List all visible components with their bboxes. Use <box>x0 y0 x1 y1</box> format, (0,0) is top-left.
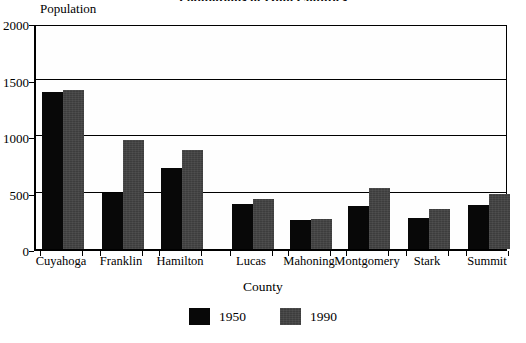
bar-mahoning-1990 <box>311 219 332 249</box>
bar-summit-1990 <box>489 194 510 249</box>
y-axis-title: Population <box>40 1 96 17</box>
y-axis-tick-label: 0 <box>0 245 29 258</box>
bar-stark-1950 <box>408 218 429 249</box>
plot-area <box>34 25 507 251</box>
x-axis-tick-label: Hamilton <box>156 254 203 269</box>
plot-inner <box>36 26 506 249</box>
bar-group <box>290 23 332 249</box>
chart-legend: 19501990 <box>0 308 526 325</box>
bar-group <box>468 23 510 249</box>
bar-cuyahoga-1990 <box>63 90 84 249</box>
x-axis-tick-mark <box>508 251 509 256</box>
bar-group <box>42 23 84 249</box>
y-axis-tick-mark <box>29 138 34 139</box>
bar-summit-1950 <box>468 205 489 249</box>
bar-hamilton-1990 <box>182 150 203 249</box>
bar-stark-1990 <box>429 209 450 249</box>
y-axis-tick-label: 2000 <box>0 19 29 32</box>
legend-label-1950: 1950 <box>219 309 246 325</box>
x-axis-tick-label: Mahoning <box>283 254 334 269</box>
y-axis-tick-label: 1500 <box>0 76 29 89</box>
x-axis-tick-mark <box>406 251 407 256</box>
x-axis-tick-label: Cuyahoga <box>36 254 87 269</box>
x-axis-tick-label: Stark <box>414 254 440 269</box>
bar-chart: Populations of Ohio Counties Population … <box>0 0 526 343</box>
legend-entry-1990: 1990 <box>280 308 337 325</box>
x-axis-tick-mark <box>230 251 231 256</box>
bar-montgomery-1990 <box>369 188 390 249</box>
bar-group <box>348 23 390 249</box>
bar-franklin-1950 <box>102 193 123 249</box>
bar-mahoning-1950 <box>290 220 311 249</box>
bar-hamilton-1950 <box>161 168 182 249</box>
bar-lucas-1990 <box>253 199 274 249</box>
bar-cuyahoga-1950 <box>42 92 63 249</box>
bar-group <box>102 23 144 249</box>
x-axis-tick-label: Montgomery <box>334 254 399 269</box>
bar-montgomery-1950 <box>348 206 369 249</box>
y-axis-tick-label: 1000 <box>0 132 29 145</box>
bar-group <box>408 23 450 249</box>
y-axis-tick-label: 500 <box>0 189 29 202</box>
x-axis-tick-label: Franklin <box>100 254 142 269</box>
y-axis-tick-mark <box>29 82 34 83</box>
bar-lucas-1950 <box>232 204 253 249</box>
legend-label-1990: 1990 <box>310 309 337 325</box>
bar-group <box>161 23 203 249</box>
y-axis-tick-mark <box>29 251 34 252</box>
bar-franklin-1990 <box>123 140 144 249</box>
x-axis-tick-label: Lucas <box>236 254 266 269</box>
x-axis-tick-label: Summit <box>467 254 507 269</box>
x-axis-tick-mark <box>448 251 449 256</box>
legend-swatch-1950 <box>189 308 210 325</box>
legend-entry-1950: 1950 <box>189 308 246 325</box>
y-axis-tick-mark <box>29 25 34 26</box>
legend-swatch-1990 <box>280 308 301 325</box>
bar-group <box>232 23 274 249</box>
x-axis-tick-mark <box>272 251 273 256</box>
x-axis-title: County <box>0 279 526 295</box>
y-axis-tick-mark <box>29 195 34 196</box>
